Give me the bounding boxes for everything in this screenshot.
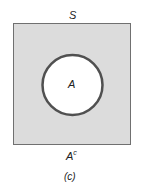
set-a-label: A — [68, 79, 75, 90]
caption: (c) — [64, 172, 76, 182]
complement-superscript: c — [73, 149, 77, 156]
complement-label: Ac — [66, 149, 77, 162]
universe-label: S — [69, 10, 76, 21]
